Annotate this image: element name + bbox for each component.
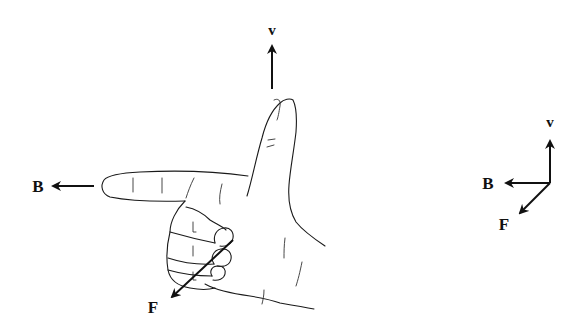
index-crease — [186, 178, 194, 198]
right-hand-rule-diagram: v B F v B F — [0, 0, 586, 327]
palm-crease — [296, 262, 302, 286]
thumb-nail — [274, 99, 280, 120]
axis-velocity-label: v — [546, 114, 554, 130]
hand-force-vector: F — [148, 240, 233, 317]
middle-finger — [170, 207, 226, 243]
axis-force-label: F — [499, 215, 509, 234]
velocity-label: v — [268, 22, 276, 38]
axis-field-label: B — [482, 174, 493, 193]
finger-crease — [193, 222, 196, 232]
little-finger — [168, 270, 212, 276]
index-finger-outline — [102, 171, 248, 201]
little-fingertip — [211, 266, 225, 280]
force-label: F — [148, 298, 158, 317]
thumb-crease — [268, 139, 275, 140]
hand-field-vector: B — [32, 177, 94, 196]
hand-illustration — [102, 99, 325, 309]
palm-crease — [284, 238, 285, 258]
reference-axes: v B F — [482, 114, 554, 234]
palm-crease — [262, 290, 264, 304]
thumb-outline — [247, 99, 325, 246]
field-label: B — [32, 177, 43, 196]
index-crease — [220, 184, 222, 204]
thumb-crease — [267, 145, 274, 147]
hand-velocity-vector: v — [268, 22, 276, 89]
axis-force-arrow — [520, 183, 550, 213]
palm-outline — [205, 284, 314, 309]
